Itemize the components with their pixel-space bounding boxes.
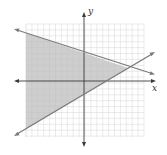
inequality-graph: y x <box>0 0 167 155</box>
x-axis-label: x <box>152 83 157 93</box>
y-axis-label: y <box>87 6 94 16</box>
